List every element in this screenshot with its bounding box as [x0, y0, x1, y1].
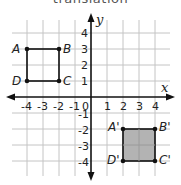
- x-axis-label: x: [161, 80, 169, 95]
- y-tick: -3: [78, 140, 89, 153]
- y-tick: -2: [78, 124, 89, 137]
- y-tick: 4: [81, 27, 88, 40]
- y-tick: 2: [81, 59, 88, 72]
- vertex-c-prime-label: C': [159, 153, 171, 167]
- y-axis-up-arrow-icon: [88, 13, 95, 22]
- vertex-c-point: [57, 79, 62, 84]
- x-tick: -4: [21, 100, 32, 113]
- vertex-a-point: [25, 47, 30, 52]
- coordinate-plane: x y -4 -3 -2 -1 0 1 2 3 4 4 3 2 1 -1 -2 …: [0, 0, 181, 185]
- vertex-b-prime-label: B': [159, 120, 171, 134]
- vertex-a-label: A: [11, 42, 20, 56]
- vertex-c-label: C: [63, 74, 72, 88]
- x-axis-left-arrow-icon: [6, 94, 15, 101]
- vertex-d-prime-label: D': [107, 153, 120, 167]
- vertex-a-prime-point: [121, 127, 126, 132]
- vertex-d-prime-point: [121, 159, 126, 164]
- vertex-c-prime-point: [153, 159, 158, 164]
- x-tick: -2: [53, 100, 64, 113]
- y-tick-labels: 4 3 2 1 -1 -2 -3 -4: [78, 27, 89, 169]
- x-tick: 1: [104, 100, 111, 113]
- y-axis-label: y: [95, 12, 104, 27]
- vertex-b-point: [57, 47, 62, 52]
- y-tick: -1: [78, 108, 89, 121]
- x-tick: 4: [152, 100, 159, 113]
- y-tick: 3: [81, 43, 88, 56]
- y-tick: -4: [78, 156, 89, 169]
- y-tick: 1: [81, 75, 88, 88]
- vertex-b-prime-point: [153, 127, 158, 132]
- y-axis-down-arrow-icon: [88, 172, 95, 181]
- x-tick-labels: -4 -3 -2 -1 0 1 2 3 4: [21, 100, 159, 113]
- x-tick: 3: [136, 100, 143, 113]
- x-tick: -3: [37, 100, 48, 113]
- vertex-d-label: D: [12, 74, 21, 88]
- vertex-a-prime-label: A': [107, 120, 120, 134]
- vertex-d-point: [25, 79, 30, 84]
- vertex-b-label: B: [63, 42, 71, 56]
- x-tick: 2: [120, 100, 127, 113]
